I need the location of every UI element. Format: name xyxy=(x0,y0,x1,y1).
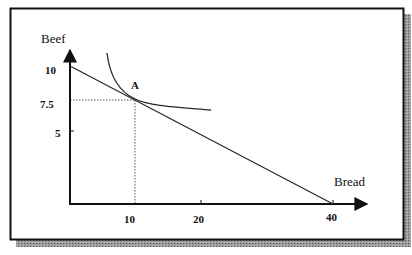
y-axis-title: Beef xyxy=(41,31,66,46)
y-tick-label-5: 5 xyxy=(55,127,61,139)
x-tick-label-40: 40 xyxy=(326,211,338,223)
x-tick-label-10: 10 xyxy=(124,213,136,225)
chart-figure: Beef Bread 10 7.5 5 10 20 40 A xyxy=(0,0,412,255)
point-a-label: A xyxy=(131,79,139,91)
x-axis-title: Bread xyxy=(334,174,366,189)
y-tick-label-7-5: 7.5 xyxy=(40,98,54,110)
x-tick-label-20: 20 xyxy=(193,213,205,225)
y-tick-label-10: 10 xyxy=(45,64,57,76)
